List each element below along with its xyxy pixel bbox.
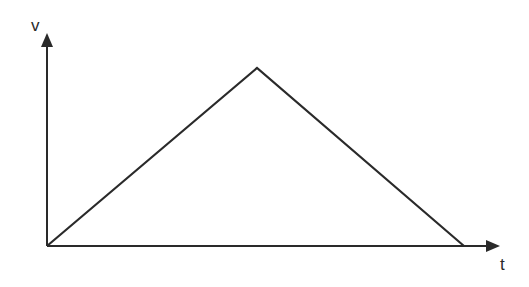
y-axis-label: v bbox=[31, 16, 40, 35]
velocity-time-diagram: v t bbox=[0, 0, 529, 287]
y-axis-arrowhead-icon bbox=[41, 33, 53, 47]
x-axis-arrowhead-icon bbox=[486, 240, 500, 252]
velocity-profile-line bbox=[47, 68, 464, 246]
x-axis-label: t bbox=[500, 255, 505, 274]
